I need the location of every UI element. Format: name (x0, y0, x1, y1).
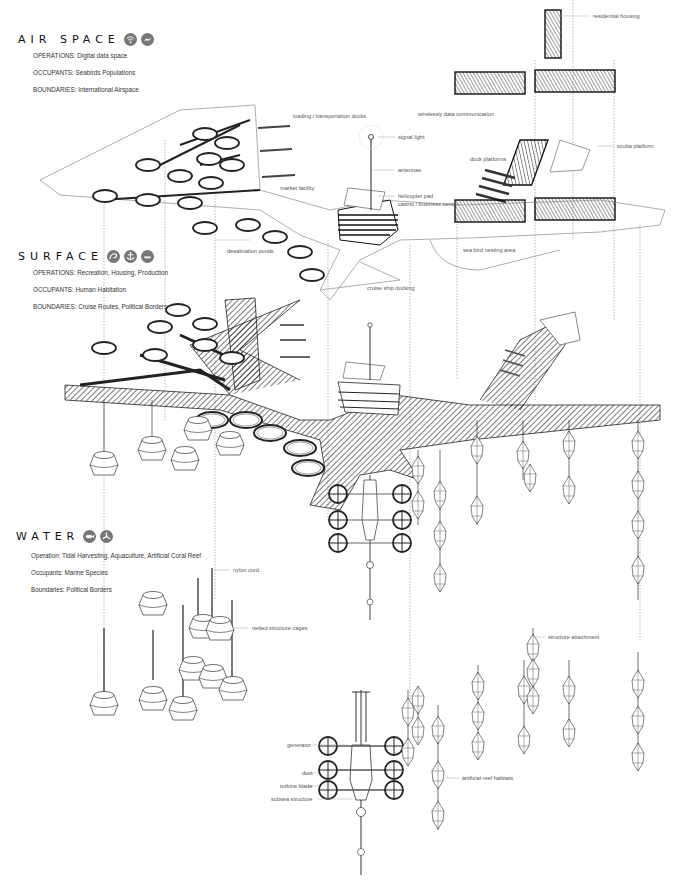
label-turbine-blade: turbine blade (280, 783, 312, 789)
anchor-icon (124, 250, 137, 263)
casino-business-center (338, 125, 398, 245)
market-network (93, 120, 295, 209)
label-desalination-ponds: desalination ponds (227, 248, 274, 254)
wifi-icon (124, 33, 137, 46)
label-cruise-ship-docking: cruise ship docking (367, 285, 415, 291)
label-scuba-platform: scuba platform (617, 143, 654, 149)
fish-icon (83, 530, 96, 543)
bird-icon (141, 33, 154, 46)
label-loading-docks: loading / transportation docks (293, 113, 366, 119)
water-occupants: Occupants: Marine Species (31, 569, 108, 576)
water-operations: Operation: Tidal Harvesting, Aquaculture… (31, 552, 201, 559)
boat-icon (141, 250, 154, 263)
surface-title: SURFACE (18, 250, 103, 263)
turbine-column-upper (329, 475, 411, 620)
label-duct: duct (302, 770, 313, 776)
label-subsea-structure: subsea structure (271, 796, 312, 802)
label-sea-bird-nesting: sea bird nesting area (463, 247, 515, 253)
label-wireless-data: wirelessly data communication (418, 111, 494, 117)
artificial-reef-strings (402, 628, 644, 830)
label-market-facility: market facility (280, 185, 314, 191)
label-artificial-reef: artificial reef habitats (462, 775, 513, 781)
label-antennae: antennae (398, 167, 421, 173)
wave-icon (107, 250, 120, 263)
label-nylon-cord: nylon cord (233, 567, 259, 573)
surface-cages (90, 400, 244, 475)
label-generator: generator (287, 742, 311, 748)
air-boundaries: BOUNDARIES: International Airspace (33, 86, 139, 93)
label-structure-attachment: structure attachment (548, 634, 599, 640)
turbine-icon (100, 530, 113, 543)
label-signal-light: signal light (398, 134, 424, 140)
air-space-title: AIR SPACE (18, 33, 120, 46)
air-occupants: OCCUPANTS: Seabirds Populations (33, 69, 135, 76)
label-netted-cages: netted structure cages (252, 625, 307, 631)
water-boundaries: Boundaries: Political Borders (31, 586, 112, 593)
surface-heading: SURFACE (18, 250, 154, 263)
surface-reef-strings (412, 420, 644, 600)
turbine-column-lower (319, 690, 403, 875)
surface-boundaries: BOUNDARIES: Cruise Routes, Political Bor… (33, 303, 167, 310)
label-residential-housing: residential housing (593, 13, 640, 19)
netted-cages-water (90, 568, 247, 720)
label-helicopter-pad: helicopter pad (398, 193, 433, 199)
exploded-axonometric-drawing (0, 0, 673, 882)
water-heading: WATER (16, 530, 113, 543)
surface-occupants: OCCUPANTS: Human Habitation (33, 286, 126, 293)
water-title: WATER (16, 530, 79, 543)
surface-operations: OPERATIONS: Recreation, Housing, Product… (33, 269, 168, 276)
label-dock-platforms: dock platforms (470, 156, 506, 162)
air-operations: OPERATIONS: Digital data space (33, 52, 127, 59)
label-casino-business: casino / business center (398, 201, 458, 207)
air-space-heading: AIR SPACE (18, 33, 154, 46)
